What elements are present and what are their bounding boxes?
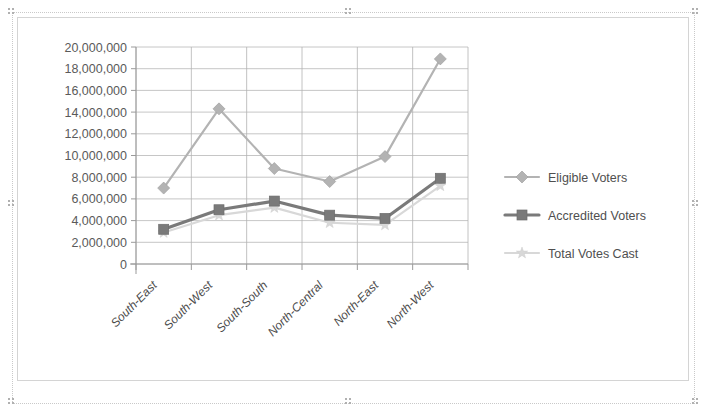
x-axis-category-label: North-East	[331, 278, 382, 329]
chart-object[interactable]: 20,000,00018,000,00016,000,00014,000,000…	[0, 0, 707, 416]
legend-marker-icon[interactable]	[516, 171, 528, 183]
y-axis-tick-label: 0	[120, 258, 127, 272]
y-axis-tick-label: 16,000,000	[64, 84, 127, 98]
y-axis-tick-label: 4,000,000	[71, 214, 127, 228]
x-axis-category-label: South-South	[213, 278, 270, 335]
axis-group	[130, 47, 468, 274]
x-axis-category-label: North-West	[384, 278, 437, 331]
y-axis-tick-label: 6,000,000	[71, 192, 127, 206]
legend-item-label[interactable]: Accredited Voters	[548, 209, 646, 223]
chart-legend[interactable]: Eligible VotersAccredited VotersTotal Vo…	[505, 171, 646, 261]
x-axis-category-labels: South-EastSouth-WestSouth-SouthNorth-Cen…	[108, 278, 437, 339]
data-point-marker[interactable]	[159, 224, 169, 234]
data-point-marker[interactable]	[325, 210, 335, 220]
y-axis-tick-label: 2,000,000	[71, 236, 127, 250]
chart-area[interactable]: 20,000,00018,000,00016,000,00014,000,000…	[0, 0, 707, 416]
data-point-marker[interactable]	[214, 205, 224, 215]
y-axis-tick-label: 14,000,000	[64, 106, 127, 120]
chart-canvas: 20,000,00018,000,00016,000,00014,000,000…	[0, 0, 707, 416]
data-point-marker[interactable]	[435, 173, 445, 183]
y-axis-tick-label: 20,000,000	[64, 41, 127, 55]
data-point-marker[interactable]	[380, 213, 390, 223]
legend-item-label[interactable]: Total Votes Cast	[548, 247, 639, 261]
y-axis-tick-labels: 20,000,00018,000,00016,000,00014,000,000…	[64, 41, 127, 272]
x-axis-category-label: South-West	[161, 278, 216, 333]
x-axis-category-label: South-East	[108, 278, 160, 330]
data-point-marker[interactable]	[379, 151, 391, 163]
legend-item-label[interactable]: Eligible Voters	[548, 171, 627, 185]
data-point-marker[interactable]	[269, 196, 279, 206]
y-axis-tick-label: 10,000,000	[64, 149, 127, 163]
data-point-marker[interactable]	[434, 53, 446, 65]
y-axis-tick-label: 18,000,000	[64, 62, 127, 76]
legend-marker-icon[interactable]	[516, 247, 527, 258]
x-axis-category-label: North-Central	[265, 278, 326, 339]
legend-marker-icon[interactable]	[517, 210, 527, 220]
y-axis-tick-label: 8,000,000	[71, 171, 127, 185]
y-axis-tick-label: 12,000,000	[64, 127, 127, 141]
